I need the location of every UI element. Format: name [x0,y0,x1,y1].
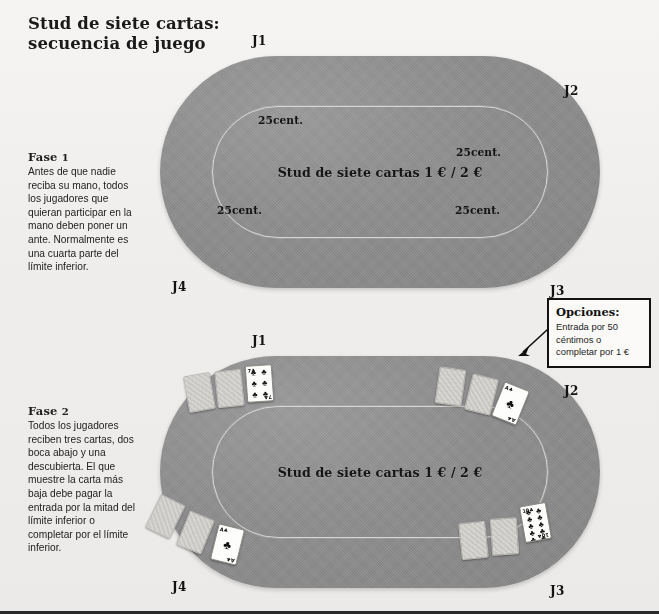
player-label-j2: J2 [564,84,579,98]
player-label-j3: J3 [550,284,565,298]
club-icon: ♣ [252,391,258,398]
club-icon: ♣ [251,380,257,387]
phase-1-heading-number: 1 [62,152,69,163]
phase-1-table: Stud de siete cartas 1 € / 2 € 25cent. 2… [160,56,600,288]
player-label-j1: J1 [252,334,267,348]
phase-2-heading-label: Fase [28,404,58,418]
card-face-down [458,521,489,561]
options-callout-body: Entrada por 50 céntimos o completar por … [556,321,643,359]
club-icon: ♣ [261,368,267,375]
phase-2-heading-number: 2 [62,406,69,417]
club-icon: ♣ [263,390,269,397]
phase-2-heading: Fase 2 [28,404,136,418]
club-icon: ♣ [251,369,257,376]
player-label-j4: J4 [172,280,187,294]
page-title-line-1: Stud de siete cartas: [28,14,298,34]
ante-chip-j2: 25cent. [456,146,501,158]
player-label-j4: J4 [172,580,187,594]
phase-1-heading-label: Fase [28,150,58,164]
card-pips: ♣ ♣ ♣ ♣ ♣ ♣ ♣ ♣ ♣ ♣ [523,506,549,538]
ante-chip-j3: 25cent. [455,204,500,216]
card-face-down [435,366,467,406]
phase-1-body: Antes de que nadie reciba su mano, todos… [28,165,136,274]
phase-1-text-block: Fase 1 Antes de que nadie reciba su mano… [28,150,136,274]
card-face-down [490,517,520,556]
phase-1-heading: Fase 1 [28,150,136,164]
player-label-j2: J2 [564,384,579,398]
phase-2-table: Stud de siete cartas 1 € / 2 € J1 J2 J3 … [160,356,600,588]
ante-chip-j4: 25cent. [217,204,262,216]
card-pips: ♣ ♣ ♣ ♣ ♣ ♣ [248,368,271,398]
card-face-down [214,369,245,409]
club-icon: ♣ [262,379,268,386]
table-stakes-label: Stud de siete cartas 1 € / 2 € [160,465,600,480]
phase-2-body: Todos los jugadores reciben tres cartas,… [28,419,136,555]
player-label-j1: J1 [252,34,267,48]
phase-2-text-block: Fase 2 Todos los jugadores reciben tres … [28,404,136,555]
ante-chip-j1: 25cent. [258,114,303,126]
player-label-j3: J3 [550,584,565,598]
table-stakes-label: Stud de siete cartas 1 € / 2 € [160,165,600,180]
options-callout-title: Opciones: [556,305,643,319]
card-seven-of-clubs: 7♣ 7♣ ♣ ♣ ♣ ♣ ♣ ♣ [245,364,275,403]
